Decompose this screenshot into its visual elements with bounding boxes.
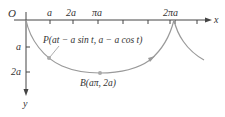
y-axis-label: y	[22, 98, 28, 109]
y-axis-arrow-icon	[24, 89, 29, 96]
x-axis-label: x	[213, 14, 219, 25]
x-axis-arrow-icon	[205, 18, 212, 23]
point-b-label: B(aπ, 2a)	[80, 78, 116, 89]
origin-label: O	[8, 7, 16, 19]
cycloid-curve-continuation	[174, 20, 204, 60]
y-tick-label-2a: 2a	[11, 66, 21, 77]
point-p	[47, 56, 51, 60]
x-tick-label-a: a	[47, 7, 52, 18]
cycloid-curve	[26, 20, 174, 73]
point-b	[98, 71, 102, 75]
point-p-label: P(at − a sin t, a − a cos t)	[42, 35, 142, 46]
y-tick-label-a: a	[16, 41, 21, 52]
x-tick-label-pia: πa	[92, 7, 102, 18]
y-ticks	[26, 47, 30, 72]
cycloid-diagram: O x y a 2a πa 2πa a 2a P(at − a sin t, a…	[0, 0, 225, 117]
x-tick-label-2pia: 2πa	[163, 7, 178, 18]
x-tick-label-2a: 2a	[66, 7, 76, 18]
p-pointer-line	[50, 46, 59, 57]
